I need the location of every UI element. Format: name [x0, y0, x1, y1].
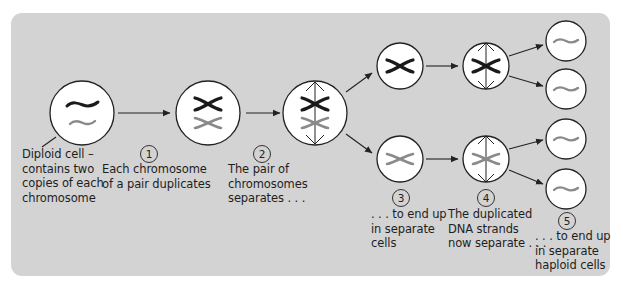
- label-step-5: . . . to end up in separate haploid cell…: [535, 229, 611, 273]
- haploid-cells: [546, 21, 586, 209]
- haploid-chromosomes: [554, 39, 578, 190]
- step-4-badge: 4: [477, 189, 495, 207]
- label-line: Each chromosome: [102, 162, 211, 177]
- cell-separating: [283, 81, 347, 145]
- step-2-badge: 2: [253, 145, 271, 163]
- cell-b: [377, 136, 423, 182]
- label-step-2: The pair of chromosomes separates . . .: [228, 162, 308, 206]
- label-line: . . . to end up: [535, 229, 611, 244]
- label-line: chromosomes: [228, 177, 308, 192]
- label-line: of a pair duplicates: [102, 177, 211, 192]
- cell-duplicated: [176, 81, 240, 145]
- label-line: haploid cells: [535, 258, 611, 273]
- label-line: contains two: [22, 162, 104, 177]
- label-step-4: The duplicated DNA strands now separate …: [448, 207, 546, 251]
- cell-diploid: [50, 81, 114, 145]
- cell-a-separating: [463, 43, 509, 89]
- step-1-badge: 1: [140, 145, 158, 163]
- step-5-badge: 5: [558, 212, 576, 230]
- label-line: . . . to end up: [371, 207, 447, 222]
- label-step-3: . . . to end up in separate cells: [371, 207, 447, 251]
- label-line: The pair of: [228, 162, 308, 177]
- step-3-badge: 3: [392, 189, 410, 207]
- label-line: in separate: [371, 222, 447, 237]
- label-line: copies of each: [22, 176, 104, 191]
- label-line: separates . . .: [228, 191, 308, 206]
- label-diploid: Diploid cell – contains two copies of ea…: [22, 147, 104, 205]
- label-line: Diploid cell –: [22, 147, 104, 162]
- label-line: cells: [371, 236, 447, 251]
- label-line: now separate . . .: [448, 236, 546, 251]
- label-step-1: Each chromosome of a pair duplicates: [102, 162, 211, 191]
- cell-b-separating: [463, 136, 509, 182]
- label-line: DNA strands: [448, 222, 546, 237]
- label-line: chromosome: [22, 191, 104, 206]
- label-line: in separate: [535, 244, 611, 259]
- cell-a: [377, 43, 423, 89]
- label-line: The duplicated: [448, 207, 546, 222]
